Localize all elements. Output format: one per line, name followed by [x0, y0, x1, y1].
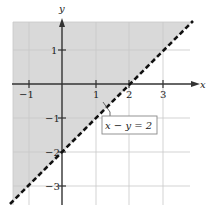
equation-label: x − y = 2 [105, 120, 152, 131]
inequality-graph: −1 1 2 3 1 −1 −2 −3 y x x − y = 2 [0, 0, 210, 209]
x-tick-label: −1 [19, 89, 34, 100]
y-axis-label: y [58, 3, 65, 14]
x-tick-label: 1 [93, 89, 99, 100]
x-tick-label: 2 [126, 89, 132, 100]
y-tick-label: −3 [45, 181, 60, 192]
x-axis-arrow-icon [191, 81, 200, 87]
x-axis-label: x [200, 79, 206, 90]
y-tick-label: −1 [45, 113, 60, 124]
x-tick-label: 3 [160, 89, 166, 100]
y-tick-label: 1 [51, 45, 57, 56]
